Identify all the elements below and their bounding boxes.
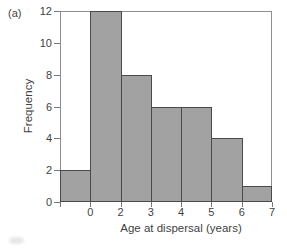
scan-artifact [9,237,24,244]
y-tick-label: 12 [20,4,52,18]
chart-layer: 0234567024681012 [0,0,287,248]
y-tick [54,75,60,76]
bar [211,138,242,202]
bar [121,75,152,202]
y-tick [54,43,60,44]
y-tick-label: 2 [20,163,52,177]
y-tick [54,202,60,203]
y-tick-label: 8 [20,68,52,82]
y-tick [54,107,60,108]
x-tick-label: 2 [118,206,124,218]
y-tick-label: 0 [20,195,52,209]
figure: (a) Frequency 0234567024681012 Age at di… [0,0,287,248]
bar [151,107,182,203]
y-tick-label: 4 [20,131,52,145]
y-tick [54,170,60,171]
x-tick-label: 7 [269,206,275,218]
y-tick [54,11,60,12]
bar [90,11,121,202]
y-tick-label: 6 [20,100,52,114]
bar [181,107,212,203]
x-tick-label: 5 [208,206,214,218]
x-tick-label: 4 [178,206,184,218]
y-tick-label: 10 [20,36,52,50]
bar [242,186,272,202]
y-tick [54,138,60,139]
x-tick [60,202,61,207]
x-axis-title: Age at dispersal (years) [120,222,241,234]
x-tick-label: 0 [87,206,93,218]
x-tick-label: 3 [148,206,154,218]
x-tick-label: 6 [239,206,245,218]
bar [60,170,91,202]
